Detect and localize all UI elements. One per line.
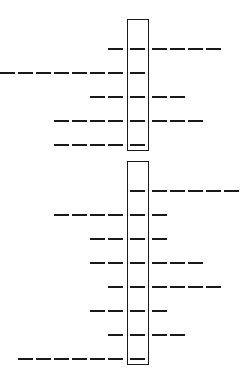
left-dash <box>18 358 33 360</box>
left-dash <box>36 72 51 74</box>
left-dash <box>54 358 69 360</box>
left-dash <box>72 144 87 146</box>
center-dash <box>130 286 145 288</box>
center-dash <box>130 190 145 192</box>
left-dash <box>72 358 87 360</box>
right-dash <box>152 310 167 312</box>
left-dash <box>108 120 123 122</box>
left-dash <box>90 120 105 122</box>
center-dash <box>130 238 145 240</box>
right-dash <box>188 48 203 50</box>
left-dash <box>108 238 123 240</box>
left-dash <box>90 72 105 74</box>
right-dash <box>170 120 185 122</box>
alignment-box-1 <box>127 19 149 151</box>
left-dash <box>108 72 123 74</box>
left-dash <box>108 286 123 288</box>
left-dash <box>90 358 105 360</box>
right-dash <box>152 286 167 288</box>
right-dash <box>152 262 167 264</box>
right-dash <box>188 190 203 192</box>
right-dash <box>152 120 167 122</box>
right-dash <box>188 120 203 122</box>
right-dash <box>224 190 239 192</box>
center-dash <box>130 120 145 122</box>
left-dash <box>54 72 69 74</box>
right-dash <box>206 190 221 192</box>
right-dash <box>170 96 185 98</box>
left-dash <box>90 96 105 98</box>
left-dash <box>18 72 33 74</box>
center-dash <box>130 310 145 312</box>
right-dash <box>170 286 185 288</box>
right-dash <box>170 262 185 264</box>
left-dash <box>72 120 87 122</box>
left-dash <box>0 72 15 74</box>
left-dash <box>90 262 105 264</box>
right-dash <box>188 262 203 264</box>
right-dash <box>152 214 167 216</box>
left-dash <box>54 144 69 146</box>
center-dash <box>130 358 145 360</box>
right-dash <box>188 286 203 288</box>
left-dash <box>108 214 123 216</box>
center-dash <box>130 262 145 264</box>
right-dash <box>170 190 185 192</box>
left-dash <box>54 214 69 216</box>
left-dash <box>108 334 123 336</box>
left-dash <box>108 48 123 50</box>
left-dash <box>108 262 123 264</box>
left-dash <box>90 310 105 312</box>
left-dash <box>90 214 105 216</box>
right-dash <box>170 334 185 336</box>
left-dash <box>54 120 69 122</box>
right-dash <box>206 286 221 288</box>
left-dash <box>90 238 105 240</box>
center-dash <box>130 214 145 216</box>
right-dash <box>152 334 167 336</box>
right-dash <box>152 238 167 240</box>
right-dash <box>152 96 167 98</box>
left-dash <box>36 358 51 360</box>
right-dash <box>152 190 167 192</box>
left-dash <box>108 144 123 146</box>
left-dash <box>72 72 87 74</box>
center-dash <box>130 144 145 146</box>
left-dash <box>90 144 105 146</box>
left-dash <box>108 358 123 360</box>
right-dash <box>206 48 221 50</box>
right-dash <box>170 48 185 50</box>
right-dash <box>152 48 167 50</box>
center-dash <box>130 96 145 98</box>
center-dash <box>130 48 145 50</box>
center-dash <box>130 334 145 336</box>
left-dash <box>72 214 87 216</box>
center-dash <box>130 72 145 74</box>
left-dash <box>108 96 123 98</box>
left-dash <box>108 310 123 312</box>
